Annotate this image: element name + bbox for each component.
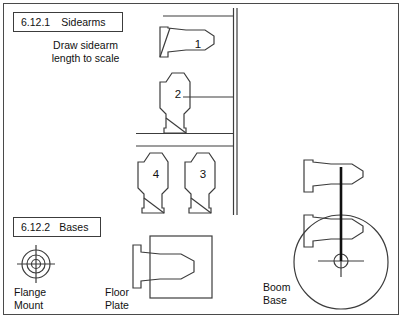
sidearm-instruction-note: Draw sidearm length to scale <box>33 39 138 65</box>
sidearm-part-1 <box>160 27 214 57</box>
caption-flange-mount-line-2: Mount <box>14 299 46 312</box>
caption-floor-plate-line-1: Floor <box>105 286 129 299</box>
caption-boom-base-line-1: Boom <box>263 281 290 294</box>
sidearm-part-2 <box>160 73 190 133</box>
caption-boom-base: Boom Base <box>263 281 290 306</box>
sidearm-part-4 <box>138 153 168 213</box>
section-number-sidearms: 6.12.1 <box>21 16 50 28</box>
wall-vertical-line <box>234 8 238 215</box>
sidearm-part-3 <box>185 153 215 213</box>
boom-arm-upper <box>304 160 363 192</box>
flange-mount-symbol <box>17 245 55 283</box>
part-number-2: 2 <box>171 88 185 100</box>
section-number-bases: 6.12.2 <box>21 221 50 233</box>
section-label-bases: 6.12.2 Bases <box>13 217 101 237</box>
part-number-3: 3 <box>196 168 210 180</box>
note-line-1: Draw sidearm <box>33 39 138 52</box>
diagram-page: 6.12.1 Sidearms 6.12.2 Bases Draw sidear… <box>0 0 403 319</box>
part-number-1: 1 <box>191 38 205 50</box>
section-title-sidearms: Sidearms <box>61 16 105 28</box>
caption-floor-plate-line-2: Plate <box>105 299 129 312</box>
section-label-sidearms: 6.12.1 Sidearms <box>13 12 123 32</box>
boom-arm-lower <box>304 215 363 247</box>
part-number-4: 4 <box>149 168 163 180</box>
floor-plate-symbol <box>133 236 212 298</box>
caption-floor-plate: Floor Plate <box>105 286 129 311</box>
caption-boom-base-line-2: Base <box>263 294 290 307</box>
note-line-2: length to scale <box>33 52 138 65</box>
caption-flange-mount: Flange Mount <box>14 286 46 311</box>
caption-flange-mount-line-1: Flange <box>14 286 46 299</box>
section-title-bases: Bases <box>59 221 88 233</box>
